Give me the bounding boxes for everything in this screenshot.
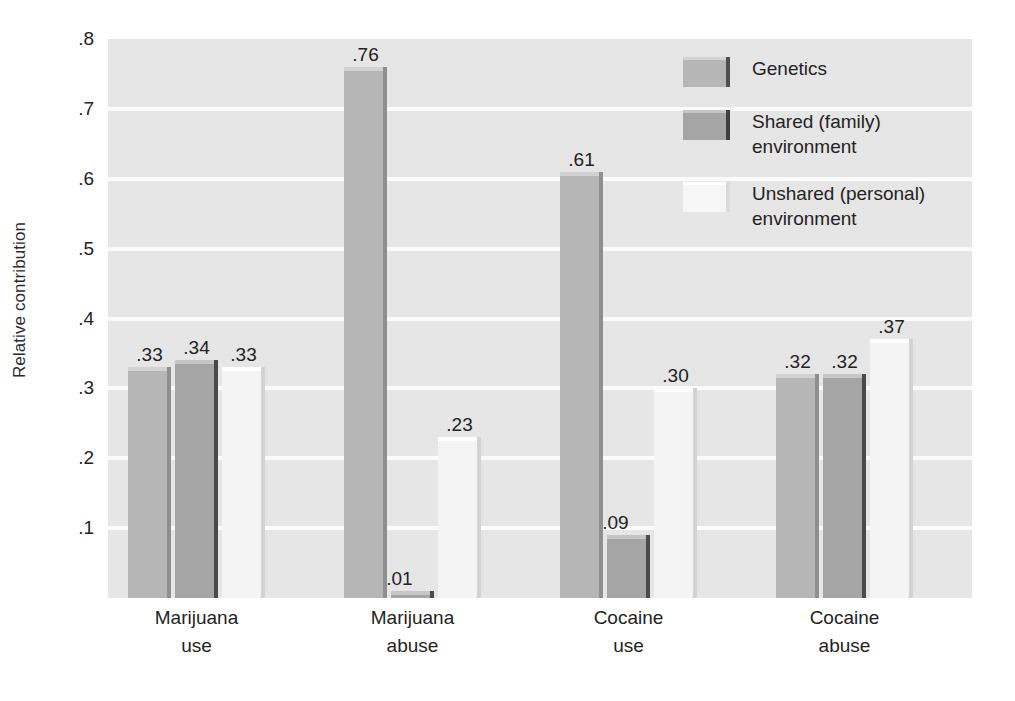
- x-tick-line-1: Cocaine: [810, 604, 880, 632]
- sw-body: [683, 110, 730, 140]
- legend-swatch-unshared: [683, 182, 730, 212]
- bar-group: .61.09.30: [560, 39, 697, 598]
- bar-value-label: .30: [662, 366, 688, 385]
- sw-top: [683, 57, 730, 60]
- x-tick-line-2: abuse: [810, 632, 880, 660]
- y-tick-label: .4: [78, 308, 94, 330]
- bar-body: [560, 172, 603, 598]
- bar-side-shadow: [815, 374, 819, 598]
- y-tick-label: .7: [78, 98, 94, 120]
- sw-body: [683, 182, 730, 212]
- bar-shared-1[interactable]: .34: [175, 360, 218, 598]
- bar-body: [438, 437, 481, 598]
- bar-shared-4[interactable]: .32: [823, 374, 866, 598]
- y-tick-label: .1: [78, 517, 94, 539]
- bar-side-shadow: [862, 374, 866, 598]
- bar-top-highlight: [776, 374, 819, 378]
- bar-value-label: .37: [878, 317, 904, 336]
- bar-shared-2[interactable]: .01: [391, 591, 434, 598]
- x-tick-line-2: use: [594, 632, 664, 660]
- bar-side-shadow: [693, 388, 697, 598]
- y-axis-title-text: Relative contribution: [10, 222, 30, 378]
- bar-body: [222, 367, 265, 598]
- bar-side-shadow: [430, 591, 434, 598]
- bar-group: .76.01.23: [344, 39, 481, 598]
- y-tick-label: .5: [78, 238, 94, 260]
- bar-value-label: .23: [446, 415, 472, 434]
- chart-legend: GeneticsShared (family) environmentUnsha…: [683, 56, 973, 253]
- x-tick-line-1: Marijuana: [371, 604, 454, 632]
- x-tick-line-2: use: [155, 632, 238, 660]
- bar-side-shadow: [383, 67, 387, 598]
- bar-genetics-2[interactable]: .76: [344, 67, 387, 598]
- bar-value-label: .01: [386, 569, 412, 588]
- bar-value-label: .61: [568, 150, 594, 169]
- bar-top-highlight: [344, 67, 387, 71]
- bar-unshared-3[interactable]: .30: [654, 388, 697, 598]
- sw-top: [683, 182, 730, 185]
- bar-shared-3[interactable]: .09: [607, 535, 650, 598]
- bar-top-highlight: [391, 591, 434, 595]
- bar-unshared-2[interactable]: .23: [438, 437, 481, 598]
- legend-label-shared: Shared (family) environment: [752, 109, 881, 159]
- bar-body: [654, 388, 697, 598]
- bar-side-shadow: [214, 360, 218, 598]
- bar-value-label: .33: [136, 345, 162, 364]
- legend-label-unshared: Unshared (personal) environment: [752, 181, 925, 231]
- y-axis-title: Relative contribution: [0, 0, 40, 600]
- bar-side-shadow: [477, 437, 481, 598]
- legend-item-unshared[interactable]: Unshared (personal) environment: [683, 181, 973, 231]
- bar-side-shadow: [261, 367, 265, 598]
- x-tick-label: Marijuanaabuse: [371, 604, 454, 659]
- bar-value-label: .32: [831, 352, 857, 371]
- bar-body: [344, 67, 387, 598]
- bar-top-highlight: [438, 437, 481, 441]
- bar-top-highlight: [560, 172, 603, 176]
- bar-value-label: .09: [602, 513, 628, 532]
- y-tick-label: .6: [78, 168, 94, 190]
- y-axis-tick-labels: .8.7.6.5.4.3.2.1: [44, 0, 102, 601]
- bar-side-shadow: [909, 339, 913, 598]
- y-tick-label: .3: [78, 377, 94, 399]
- sw-body: [683, 57, 730, 87]
- bar-top-highlight: [654, 388, 697, 392]
- bar-body: [870, 339, 913, 598]
- bar-genetics-4[interactable]: .32: [776, 374, 819, 598]
- bar-unshared-4[interactable]: .37: [870, 339, 913, 598]
- sw-side: [726, 57, 730, 87]
- bar-top-highlight: [607, 535, 650, 539]
- bar-side-shadow: [167, 367, 171, 598]
- x-tick-label: Cocaineabuse: [810, 604, 880, 659]
- bar-genetics-3[interactable]: .61: [560, 172, 603, 598]
- legend-item-shared[interactable]: Shared (family) environment: [683, 109, 973, 159]
- x-tick-line-1: Marijuana: [155, 604, 238, 632]
- bar-top-highlight: [222, 367, 265, 371]
- bar-genetics-1[interactable]: .33: [128, 367, 171, 598]
- bar-unshared-1[interactable]: .33: [222, 367, 265, 598]
- x-tick-line-1: Cocaine: [594, 604, 664, 632]
- x-axis-tick-labels: MarijuanauseMarijuanaabuseCocaineuseCoca…: [108, 604, 972, 684]
- bar-group: .33.34.33: [128, 39, 265, 598]
- bar-body: [607, 535, 650, 598]
- bar-top-highlight: [128, 367, 171, 371]
- bar-body: [776, 374, 819, 598]
- bar-body: [175, 360, 218, 598]
- bar-top-highlight: [823, 374, 866, 378]
- bar-body: [823, 374, 866, 598]
- sw-side: [726, 110, 730, 140]
- legend-item-genetics[interactable]: Genetics: [683, 56, 973, 87]
- bar-value-label: .76: [352, 45, 378, 64]
- y-tick-label: .2: [78, 447, 94, 469]
- sw-side: [726, 182, 730, 212]
- bar-top-highlight: [870, 339, 913, 343]
- bar-top-highlight: [175, 360, 218, 364]
- bar-side-shadow: [646, 535, 650, 598]
- bar-value-label: .33: [230, 345, 256, 364]
- x-tick-label: Cocaineuse: [594, 604, 664, 659]
- y-tick-label: .8: [78, 28, 94, 50]
- bar-body: [128, 367, 171, 598]
- bar-chart-figure: Relative contribution .8.7.6.5.4.3.2.1 .…: [0, 0, 1015, 701]
- bar-side-shadow: [599, 172, 603, 598]
- bar-value-label: .32: [784, 352, 810, 371]
- sw-top: [683, 110, 730, 113]
